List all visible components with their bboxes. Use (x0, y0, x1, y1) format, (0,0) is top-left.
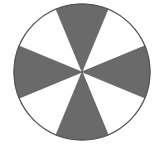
sector-diagram (0, 0, 155, 145)
sectors-group (14, 4, 150, 140)
